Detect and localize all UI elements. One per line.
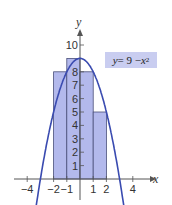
y-tick-label: 1 <box>72 160 78 172</box>
x-axis-label: x <box>152 172 159 186</box>
x-tick-label: −1 <box>61 183 74 195</box>
y-tick-label: 8 <box>72 66 78 78</box>
y-tick-label: 6 <box>72 93 78 105</box>
x-tick-label: −4 <box>21 183 34 195</box>
x-tick-label: 2 <box>103 183 109 195</box>
riemann-rectangle <box>93 112 106 179</box>
y-tick-label: 10 <box>66 39 78 51</box>
x-tick-label: −2 <box>47 183 60 195</box>
y-tick-label: 7 <box>72 79 78 91</box>
y-tick-label: 4 <box>72 119 78 131</box>
eq-exp: 2 <box>146 56 150 64</box>
y-axis-arrow-icon <box>77 29 83 36</box>
y-tick-label: 5 <box>72 106 78 118</box>
x-tick-label: 4 <box>130 183 136 195</box>
eq-mid: = 9 − <box>118 54 141 66</box>
riemann-sum-chart: −4−2−11241234567810 x y <box>0 0 172 205</box>
y-axis-label: y <box>75 15 82 29</box>
y-tick-label: 2 <box>72 146 78 158</box>
equation-label: y = 9 − x2 <box>105 52 157 68</box>
y-tick-label: 3 <box>72 133 78 145</box>
x-tick-label: 1 <box>90 183 96 195</box>
